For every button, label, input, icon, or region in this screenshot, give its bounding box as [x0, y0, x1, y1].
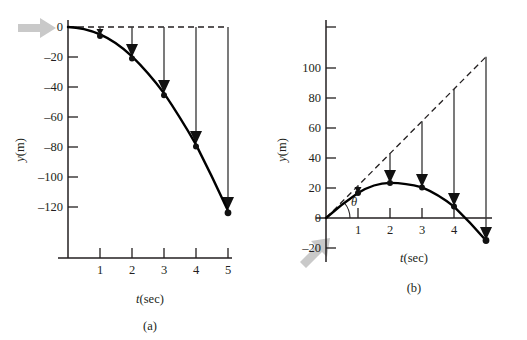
y-tick-label: 60 — [309, 121, 322, 135]
free-fall-curve — [68, 27, 228, 211]
y-tick-label: 80 — [309, 91, 322, 105]
projectile-motion-figure: 0 –20 –40 –60 –80 –100 –120 1 2 3 4 — [0, 0, 527, 340]
theta-angle-arc — [345, 203, 351, 218]
y-tick-label: 0 — [315, 211, 321, 225]
panel-a-x-ticks — [100, 248, 228, 258]
no-gravity-dashed-path — [326, 57, 486, 218]
x-axis-unit: (sec) — [404, 251, 428, 265]
x-tick-label: 4 — [193, 263, 200, 277]
panel-b-caption: (b) — [407, 281, 422, 295]
panel-b-x-ticks — [358, 208, 454, 218]
x-tick-label: 4 — [451, 223, 458, 237]
y-tick-label: 40 — [309, 151, 322, 165]
panel-a-y-axis-label: y(m) — [13, 138, 27, 164]
y-tick-label: –100 — [37, 170, 63, 184]
panel-a-plot: 0 –20 –40 –60 –80 –100 –120 1 2 3 4 — [0, 0, 264, 340]
y-tick-label: –40 — [43, 80, 63, 94]
panel-b-projectile: 100 80 60 40 20 0 –20 1 2 3 4 — [264, 0, 527, 340]
y-tick-label: –20 — [301, 241, 321, 255]
panel-a-y-tick-labels: 0 –20 –40 –60 –80 –100 –120 — [37, 20, 63, 214]
gray-pointer-arrow-icon — [18, 18, 56, 38]
panel-b-y-axis-label: y(m) — [275, 138, 289, 164]
panel-a-x-tick-labels: 1 2 3 4 5 — [97, 263, 231, 277]
y-tick-label: 100 — [302, 61, 321, 75]
x-axis-unit: (sec) — [140, 292, 164, 306]
y-axis-unit: (m) — [13, 138, 27, 156]
panel-b-x-axis-label: t(sec) — [400, 251, 428, 265]
panel-a-x-axis-label: t(sec) — [136, 292, 164, 306]
y-tick-label: 0 — [57, 20, 63, 34]
panel-a-drop-arrows — [97, 27, 235, 210]
x-tick-label: 1 — [97, 263, 103, 277]
panel-a-free-fall: 0 –20 –40 –60 –80 –100 –120 1 2 3 4 — [0, 0, 264, 340]
panel-b-y-tick-labels: 100 80 60 40 20 0 –20 — [301, 61, 321, 255]
svg-text:y(m): y(m) — [13, 138, 27, 164]
panel-b-drop-arrows — [355, 57, 493, 240]
y-tick-label: –60 — [43, 110, 63, 124]
y-tick-label: –120 — [37, 200, 63, 214]
x-tick-label: 3 — [419, 223, 425, 237]
panel-a-y-ticks — [68, 27, 78, 207]
y-tick-label: –80 — [43, 140, 63, 154]
y-tick-label: –20 — [43, 50, 63, 64]
x-tick-label: 2 — [387, 223, 393, 237]
y-tick-label: 20 — [309, 181, 322, 195]
x-tick-label: 2 — [129, 263, 135, 277]
panel-a-caption: (a) — [143, 319, 157, 333]
projectile-curve — [326, 183, 486, 241]
x-tick-label: 3 — [161, 263, 167, 277]
y-axis-unit: (m) — [275, 138, 289, 156]
x-tick-label: 5 — [225, 263, 231, 277]
x-tick-label: 1 — [355, 223, 361, 237]
svg-text:y(m): y(m) — [275, 138, 289, 164]
panel-b-x-tick-labels: 1 2 3 4 — [355, 223, 458, 237]
panel-b-plot: 100 80 60 40 20 0 –20 1 2 3 4 — [264, 0, 527, 340]
